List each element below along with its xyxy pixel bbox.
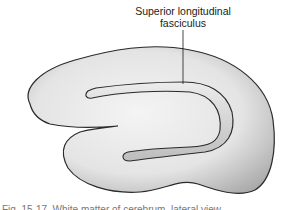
label-line-1: Superior longitudinal bbox=[118, 5, 248, 17]
hemisphere-outline bbox=[28, 47, 274, 194]
brain-diagram-figure: Superior longitudinal fasciculus Fig. 15… bbox=[0, 0, 292, 210]
caption-text: Fig. 15-17. White matter of cerebrum, la… bbox=[2, 204, 292, 210]
hemisphere-illustration bbox=[0, 0, 292, 210]
fasciculus-label: Superior longitudinal fasciculus bbox=[118, 5, 248, 29]
label-line-2: fasciculus bbox=[118, 17, 248, 29]
figure-caption: Fig. 15-17. White matter of cerebrum, la… bbox=[2, 204, 292, 210]
